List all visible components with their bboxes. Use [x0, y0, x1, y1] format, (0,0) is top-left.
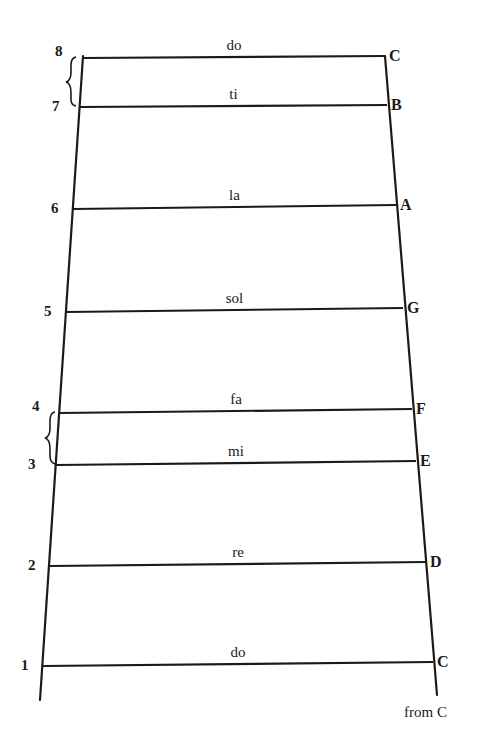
note-letter-C-1: C	[437, 654, 449, 670]
note-letter-D-2: D	[430, 554, 442, 570]
degree-number-2: 2	[28, 558, 36, 573]
note-letter-F-4: F	[416, 401, 426, 417]
solfege-re-2: re	[232, 545, 244, 560]
solfege-do-8: do	[227, 38, 242, 53]
note-letter-G-5: G	[407, 300, 419, 316]
note-letter-A-6: A	[400, 197, 412, 213]
solfege-ti-7: ti	[229, 87, 237, 102]
solfege-do-1: do	[231, 645, 246, 660]
solfege-sol-5: sol	[226, 291, 244, 306]
degree-number-8: 8	[55, 44, 63, 59]
degree-number-1: 1	[21, 658, 29, 673]
left-rail	[40, 56, 83, 700]
scale-ladder-lines	[0, 0, 480, 756]
rung-3	[56, 461, 416, 465]
half-step-brace-8-7	[66, 57, 76, 106]
rung-5	[66, 308, 403, 312]
note-letter-E-3: E	[420, 453, 431, 469]
rung-2	[50, 562, 426, 566]
solfege-fa-4: fa	[230, 392, 242, 407]
rung-1	[43, 662, 433, 666]
right-rail	[385, 56, 437, 695]
degree-number-6: 6	[51, 201, 59, 216]
degree-number-3: 3	[28, 457, 36, 472]
rung-7	[80, 105, 387, 107]
caption-from-c: from C	[404, 705, 447, 720]
note-letter-B-7: B	[391, 97, 402, 113]
degree-number-5: 5	[44, 304, 52, 319]
degree-number-4: 4	[32, 399, 40, 414]
solfege-la-6: la	[229, 188, 240, 203]
solfege-mi-3: mi	[228, 444, 244, 459]
rung-6	[73, 205, 396, 209]
note-letter-C-8: C	[389, 48, 401, 64]
rung-4	[60, 409, 412, 413]
degree-number-7: 7	[52, 99, 60, 114]
rung-8	[83, 56, 385, 58]
half-step-brace-4-3	[45, 412, 55, 464]
